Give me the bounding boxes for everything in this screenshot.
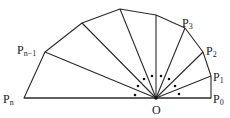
label-P1: P1	[213, 70, 224, 85]
polygon-fan-diagram: O P0 P1 P2 P3 Pn−1 Pn	[0, 0, 230, 118]
angle-marker-dot	[137, 85, 140, 88]
label-Pn: Pn	[3, 92, 14, 107]
angle-marker-dot	[174, 85, 177, 88]
label-P3: P3	[182, 16, 193, 31]
spoke-6	[82, 23, 156, 98]
angle-marker-dot	[134, 94, 137, 97]
angle-marker-dot	[143, 78, 146, 81]
spoke-2	[156, 52, 203, 98]
angle-marker-dot	[151, 75, 154, 78]
label-P2: P2	[206, 44, 217, 59]
spoke-5	[120, 9, 156, 98]
spoke-3	[156, 28, 185, 98]
angle-marker-dot	[178, 93, 181, 96]
label-P0: P0	[213, 92, 224, 107]
angle-marker-dot	[168, 78, 171, 81]
center-point	[154, 96, 158, 100]
spoke-7	[45, 52, 156, 98]
angle-marker-dot	[160, 75, 163, 78]
label-Pn-1: Pn−1	[17, 43, 36, 58]
label-O: O	[152, 103, 161, 117]
